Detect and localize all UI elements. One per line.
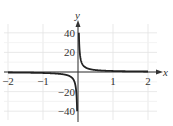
chart: −2−1124020−20−40 x y xyxy=(0,0,173,126)
x-tick-label: −2 xyxy=(2,75,14,87)
x-tick-label: 2 xyxy=(145,75,151,87)
x-tick-label: 1 xyxy=(110,75,116,87)
y-tick-label: 40 xyxy=(64,27,76,39)
y-tick-label: −40 xyxy=(58,105,76,117)
y-axis-arrow-icon xyxy=(76,20,81,27)
y-axis-label: y xyxy=(74,9,80,21)
x-tick-label: −1 xyxy=(37,75,49,87)
x-axis-arrow-icon xyxy=(156,70,163,75)
y-tick-label: −20 xyxy=(58,86,76,98)
y-tick-label: 20 xyxy=(64,46,76,58)
x-axis-label: x xyxy=(162,66,168,78)
